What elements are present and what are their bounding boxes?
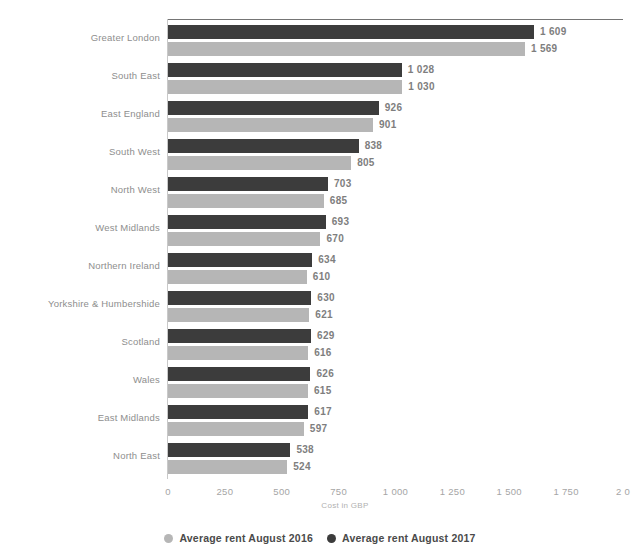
bar-value-label: 634 (318, 253, 336, 267)
bar-2017 (168, 63, 402, 77)
legend-swatch-circle-icon (327, 534, 336, 543)
bar-value-label: 610 (313, 270, 331, 284)
bar-2017 (168, 291, 311, 305)
category-label: Wales (0, 374, 160, 385)
category-label: West Midlands (0, 222, 160, 233)
bar-2017 (168, 367, 310, 381)
legend-item[interactable]: Average rent August 2016 (164, 532, 313, 544)
bar-value-label: 617 (314, 405, 332, 419)
bar-value-label: 616 (314, 346, 332, 360)
legend-item[interactable]: Average rent August 2017 (327, 532, 476, 544)
bar-value-label: 901 (379, 118, 397, 132)
bar-2016 (168, 42, 525, 56)
bar-2017 (168, 253, 312, 267)
bar-group: East Midlands617597 (0, 402, 640, 440)
plot-area: Greater London1 6091 569South East1 0281… (0, 22, 640, 480)
bar-2017 (168, 101, 379, 115)
x-tick-label: 750 (330, 486, 347, 497)
bar-2016 (168, 232, 320, 246)
x-tick-label: 2 0 (616, 486, 630, 497)
bar-2016 (168, 308, 309, 322)
bar-2016 (168, 270, 307, 284)
bar-2016 (168, 80, 402, 94)
x-tick-label: 250 (216, 486, 233, 497)
category-label: Scotland (0, 336, 160, 347)
bar-2016 (168, 118, 373, 132)
bar-group: Greater London1 6091 569 (0, 22, 640, 60)
bar-2017 (168, 177, 328, 191)
bar-value-label: 538 (296, 443, 314, 457)
x-tick-label: 1 250 (440, 486, 465, 497)
bar-value-label: 703 (334, 177, 352, 191)
category-label: Greater London (0, 32, 160, 43)
bar-value-label: 1 569 (531, 42, 558, 56)
x-tick-label: 1 750 (553, 486, 578, 497)
category-label: Yorkshire & Humbershide (0, 298, 160, 309)
bar-group: Scotland629616 (0, 326, 640, 364)
bar-group: North East538524 (0, 440, 640, 478)
bar-value-label: 693 (332, 215, 350, 229)
bar-value-label: 1 609 (540, 25, 567, 39)
bar-2017 (168, 329, 311, 343)
bar-value-label: 597 (310, 422, 328, 436)
x-axis-title: Cost in GBP (0, 501, 640, 510)
bar-value-label: 1 028 (408, 63, 435, 77)
x-tick-label: 1 000 (383, 486, 408, 497)
bar-2017 (168, 215, 326, 229)
bar-group: East England926901 (0, 98, 640, 136)
x-tick-label: 0 (165, 486, 171, 497)
legend-label: Average rent August 2017 (342, 532, 476, 544)
bar-2016 (168, 422, 304, 436)
x-axis-title-text: Cost in GBP (321, 501, 368, 510)
plot-top-rule (167, 19, 623, 20)
legend-swatch-circle-icon (164, 534, 173, 543)
bar-2016 (168, 156, 351, 170)
x-axis-ticks: 02505007501 0001 2501 5001 7502 0 (0, 486, 640, 500)
bar-value-label: 670 (326, 232, 344, 246)
bar-group: South West838805 (0, 136, 640, 174)
bar-value-label: 615 (314, 384, 332, 398)
legend-label: Average rent August 2016 (179, 532, 313, 544)
bar-value-label: 838 (365, 139, 383, 153)
bar-group: South East1 0281 030 (0, 60, 640, 98)
bar-2017 (168, 443, 290, 457)
bar-2017 (168, 405, 308, 419)
bar-chart: Greater London1 6091 569South East1 0281… (0, 0, 640, 556)
category-label: East England (0, 108, 160, 119)
bar-group: North West703685 (0, 174, 640, 212)
category-label: North West (0, 184, 160, 195)
bar-value-label: 524 (293, 460, 311, 474)
bar-value-label: 626 (316, 367, 334, 381)
bar-2016 (168, 194, 324, 208)
bar-group: Northern Ireland634610 (0, 250, 640, 288)
bar-2017 (168, 139, 359, 153)
x-tick-label: 1 500 (497, 486, 522, 497)
bar-group: Yorkshire & Humbershide630621 (0, 288, 640, 326)
x-tick-label: 500 (273, 486, 290, 497)
bar-value-label: 629 (317, 329, 335, 343)
bar-group: Wales626615 (0, 364, 640, 402)
bar-value-label: 926 (385, 101, 403, 115)
bar-2016 (168, 346, 308, 360)
bar-group: West Midlands693670 (0, 212, 640, 250)
category-label: South West (0, 146, 160, 157)
bar-value-label: 621 (315, 308, 333, 322)
bar-value-label: 630 (317, 291, 335, 305)
bar-value-label: 685 (330, 194, 348, 208)
chart-legend: Average rent August 2016Average rent Aug… (0, 532, 640, 544)
bar-value-label: 805 (357, 156, 375, 170)
bar-2017 (168, 25, 534, 39)
bar-2016 (168, 460, 287, 474)
bar-value-label: 1 030 (408, 80, 435, 94)
category-label: Northern Ireland (0, 260, 160, 271)
category-label: North East (0, 450, 160, 461)
category-label: East Midlands (0, 412, 160, 423)
category-label: South East (0, 70, 160, 81)
bar-2016 (168, 384, 308, 398)
